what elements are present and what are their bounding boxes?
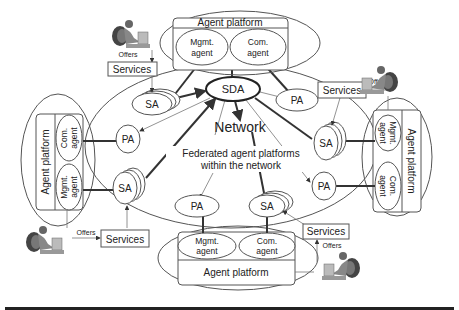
pa-node-top-right: PA	[276, 89, 318, 111]
svg-text:Offers: Offers	[323, 242, 342, 249]
pa-node-right: PA	[312, 172, 336, 200]
agent-platform-bottom: Agent platform Mgmt. agent Com. agent	[158, 226, 318, 290]
svg-text:Mgmt.: Mgmt.	[59, 175, 69, 199]
person-at-computer-icon	[112, 20, 150, 48]
federated-label-line1: Federated agent platforms	[182, 148, 299, 159]
svg-text:PA: PA	[191, 201, 204, 212]
svg-text:agent: agent	[378, 175, 388, 197]
svg-text:Services: Services	[106, 234, 144, 245]
network-label: Network	[214, 119, 266, 135]
pa-node-bottom: PA	[175, 195, 219, 217]
svg-text:Services: Services	[323, 85, 361, 96]
agent-network-diagram: Agent platform Mgmt. agent Com. agent Ag…	[0, 0, 459, 310]
svg-text:agent: agent	[256, 246, 278, 256]
federated-label-line2: within the network	[200, 160, 282, 171]
svg-text:SA: SA	[118, 183, 132, 194]
svg-text:Agent platform: Agent platform	[40, 129, 51, 194]
svg-text:agent: agent	[191, 48, 213, 58]
agent-platform-right: Agent platform Mgmt. agent Com. agent	[362, 98, 432, 216]
svg-text:Com.: Com.	[388, 176, 398, 196]
agent-platform-top: Agent platform Mgmt. agent Com. agent	[160, 11, 320, 75]
mgmt-agent-top	[176, 29, 228, 65]
svg-text:SDA: SDA	[222, 83, 245, 95]
platform-title: Agent platform	[197, 17, 262, 28]
svg-text:SA: SA	[319, 138, 333, 149]
person-at-computer-icon	[322, 252, 360, 280]
person-at-computer-icon	[26, 226, 64, 254]
svg-text:SA: SA	[145, 99, 159, 110]
svg-text:agent: agent	[69, 176, 79, 198]
svg-text:agent: agent	[196, 246, 218, 256]
svg-text:Com.: Com.	[257, 236, 277, 246]
svg-text:Mgmt.: Mgmt.	[388, 121, 398, 145]
svg-text:PA: PA	[318, 181, 331, 192]
sa-node-left: SA	[113, 168, 145, 204]
svg-text:Services: Services	[307, 226, 345, 237]
com-agent-top	[230, 29, 286, 65]
svg-text:Services: Services	[113, 64, 151, 75]
pa-node-left: PA	[116, 125, 140, 153]
agent-platform-left: Agent platform Com. agent Mgmt. agent	[21, 94, 95, 226]
sa-node-top-left: SA	[132, 89, 180, 115]
svg-text:PA: PA	[291, 95, 304, 106]
svg-text:Com.: Com.	[248, 37, 268, 47]
svg-text:Com.: Com.	[59, 128, 69, 148]
svg-text:Offers: Offers	[119, 51, 138, 58]
svg-text:SA: SA	[260, 201, 274, 212]
svg-text:Mgmt.: Mgmt.	[190, 37, 214, 47]
svg-text:Offers: Offers	[77, 229, 96, 236]
svg-text:agent: agent	[69, 127, 79, 149]
svg-text:agent: agent	[247, 48, 269, 58]
svg-text:agent: agent	[378, 122, 388, 144]
svg-text:Agent platform: Agent platform	[203, 267, 268, 278]
svg-text:Agent platform: Agent platform	[406, 128, 417, 193]
svg-text:Mgmt.: Mgmt.	[195, 236, 219, 246]
sa-node-right: SA	[314, 122, 346, 160]
svg-text:PA: PA	[122, 134, 135, 145]
services-box-bottom-right: Services Offers	[303, 224, 349, 249]
services-box-top-left: Services Offers	[108, 51, 157, 76]
